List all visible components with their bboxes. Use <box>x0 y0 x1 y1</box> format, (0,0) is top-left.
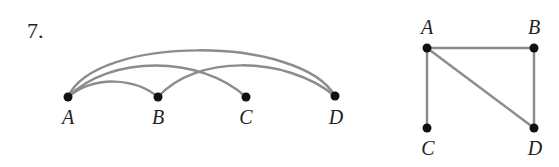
graph1-edges <box>68 50 335 97</box>
label-a: A <box>62 106 74 129</box>
edge-a-d <box>427 48 534 128</box>
graph2-edges <box>427 48 534 128</box>
vertex-d <box>331 92 340 101</box>
graph-drawings <box>0 0 559 167</box>
vertex-b <box>154 93 163 102</box>
label-b: B <box>152 106 164 129</box>
label-b: B <box>528 16 540 39</box>
edge-b-d <box>158 65 335 97</box>
label-d: D <box>528 137 542 160</box>
vertex-c <box>242 93 251 102</box>
vertex-a <box>64 93 73 102</box>
label-d: D <box>329 106 343 129</box>
label-c: C <box>239 106 252 129</box>
vertex-a <box>423 44 432 53</box>
label-a: A <box>421 16 433 39</box>
label-c: C <box>421 137 434 160</box>
graph1-vertices <box>64 92 340 102</box>
vertex-b <box>530 44 539 53</box>
edge-a-b <box>68 82 158 97</box>
vertex-c <box>423 124 432 133</box>
vertex-d <box>530 124 539 133</box>
